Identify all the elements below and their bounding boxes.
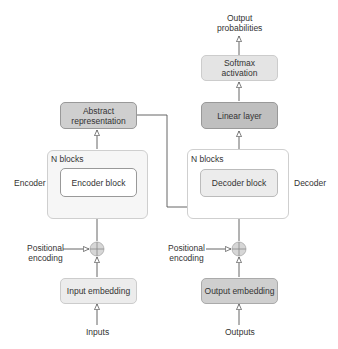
encoder-positional-encoding-label: Positional encoding: [27, 243, 64, 263]
encoder-n-blocks-label: N blocks: [51, 154, 84, 164]
input-embedding-box: Input embedding: [60, 278, 137, 304]
pe-line1: Positional: [27, 243, 64, 253]
outprob-line1: Output: [217, 13, 262, 23]
softmax-line2: activation: [222, 68, 258, 78]
decoder-positional-encoding-label: Positional encoding: [168, 243, 205, 263]
add-icon-decoder: [232, 242, 246, 256]
encoder-block: Encoder block: [60, 168, 137, 197]
decoder-n-blocks-label: N blocks: [191, 154, 224, 164]
inputs-label: Inputs: [86, 327, 109, 337]
outputs-label: Outputs: [225, 327, 255, 337]
outprob-line2: probabilities: [217, 23, 262, 33]
dpe-line1: Positional: [168, 243, 205, 253]
input-embedding-label: Input embedding: [67, 286, 130, 296]
add-icon-encoder: [90, 242, 104, 256]
output-embedding-label: Output embedding: [205, 286, 275, 296]
abstract-line2: representation: [71, 116, 125, 126]
pe-line2: encoding: [27, 253, 64, 263]
decoder-block-label: Decoder block: [212, 178, 266, 188]
softmax-line1: Softmax: [222, 58, 258, 68]
decoder-block: Decoder block: [200, 169, 278, 197]
output-embedding-box: Output embedding: [201, 278, 278, 304]
dpe-line2: encoding: [168, 253, 205, 263]
linear-layer-box: Linear layer: [201, 102, 278, 129]
decoder-side-label: Decoder: [294, 178, 326, 188]
abstract-representation-box: Abstract representation: [60, 102, 137, 129]
encoder-side-label: Encoder: [14, 178, 46, 188]
output-probabilities-label: Output probabilities: [217, 13, 262, 33]
softmax-box: Softmax activation: [201, 55, 278, 81]
abstract-line1: Abstract: [71, 106, 125, 116]
encoder-block-label: Encoder block: [72, 178, 126, 188]
linear-layer-label: Linear layer: [217, 111, 261, 121]
